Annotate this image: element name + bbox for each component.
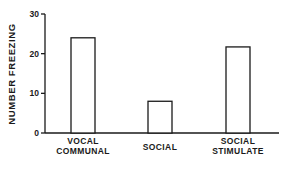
y-tick-label: 0 (19, 128, 39, 138)
x-tick-label: SOCIALSTIMULATE (198, 136, 278, 156)
y-tick-label: 10 (19, 88, 39, 98)
x-tick-label: SOCIAL (120, 142, 200, 152)
bar-chart: NUMBER FREEZING 0102030 VOCALCOMMUNALSOC… (0, 0, 294, 169)
bar-vocal-communal (71, 38, 95, 133)
x-tick-label: VOCALCOMMUNAL (43, 136, 123, 156)
y-tick-label: 20 (19, 49, 39, 59)
y-axis-label: NUMBER FREEZING (6, 23, 17, 124)
bar-social (148, 101, 172, 133)
y-tick-label: 30 (19, 9, 39, 19)
bar-social-stimulate (226, 47, 250, 133)
